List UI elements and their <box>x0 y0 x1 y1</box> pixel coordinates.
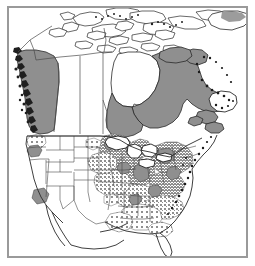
north-america-map <box>0 0 255 266</box>
map-figure: Present / reported Absent / not reported <box>0 0 255 266</box>
lake-michigan <box>127 144 142 158</box>
